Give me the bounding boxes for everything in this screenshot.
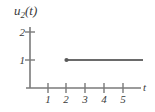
x-tick-label-4: 4 (98, 94, 110, 105)
x-tick-label-3: 3 (79, 94, 91, 105)
step-start-point-icon (64, 58, 68, 62)
x-axis-label: t (143, 82, 146, 93)
y-tick-label-2: 2 (13, 27, 25, 38)
y-tick-label-1: 1 (13, 55, 25, 66)
step-function-figure: u2(t) 1 2 3 4 5 1 2 t (0, 0, 155, 112)
x-tick-label-5: 5 (117, 94, 129, 105)
x-tick-label-2: 2 (60, 94, 72, 105)
x-tick-label-1: 1 (42, 94, 54, 105)
